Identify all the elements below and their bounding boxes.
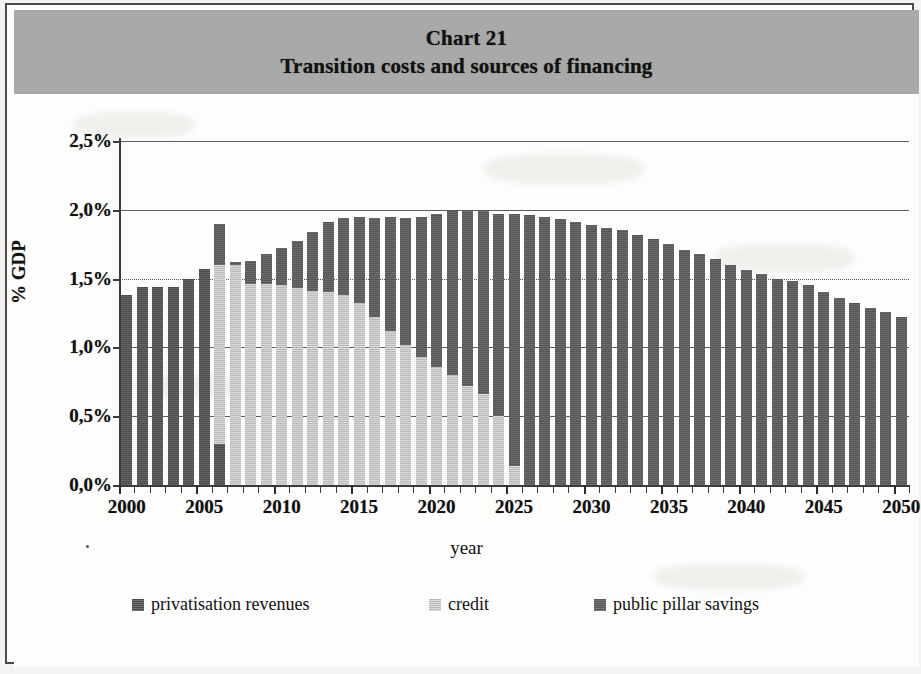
x-axis-tick — [522, 485, 523, 493]
bar-segment-priv — [168, 287, 179, 485]
bar-2030 — [586, 225, 597, 485]
bar-2025 — [509, 214, 520, 485]
bar-2022 — [462, 211, 473, 485]
bar-segment-savings — [772, 279, 783, 485]
y-axis-tick-labels: 0,0%0,5%1,0%1,5%2,0%2,5% — [44, 141, 112, 485]
bar-segment-savings — [524, 215, 535, 485]
bar-2041 — [756, 274, 767, 485]
chart-subtitle: Transition costs and sources of financin… — [280, 55, 652, 77]
bar-2050 — [896, 317, 907, 485]
x-axis-tick — [119, 485, 121, 494]
bar-2045 — [818, 292, 829, 485]
bar-2017 — [385, 217, 396, 485]
bar-segment-credit — [447, 375, 458, 485]
bar-segment-savings — [896, 317, 907, 485]
y-axis-tick-label: 1,5% — [52, 268, 112, 290]
x-axis-tick — [692, 485, 693, 493]
bar-segment-credit — [385, 331, 396, 485]
legend-label: credit — [448, 594, 489, 615]
chart-legend: privatisation revenuescreditpublic pilla… — [14, 594, 919, 624]
bar-segment-priv — [183, 279, 194, 485]
bar-segment-credit — [354, 303, 365, 485]
bar-2019 — [416, 217, 427, 485]
bar-segment-credit — [338, 295, 349, 485]
x-axis-tick-label: 2000 — [92, 496, 162, 518]
bar-2020 — [431, 214, 442, 485]
legend-swatch-icon — [132, 599, 144, 611]
x-axis-tick — [863, 485, 864, 493]
bar-2023 — [478, 211, 489, 485]
bar-segment-savings — [710, 259, 721, 485]
bar-segment-savings — [694, 254, 705, 485]
bar-2007 — [230, 262, 241, 485]
bar-2028 — [555, 219, 566, 485]
x-axis-tick-label: 2045 — [789, 496, 859, 518]
bar-2032 — [617, 230, 628, 485]
bar-segment-savings — [292, 241, 303, 288]
x-axis-tick — [584, 485, 586, 494]
bar-segment-savings — [307, 232, 318, 291]
bar-segment-credit — [431, 367, 442, 485]
bar-segment-savings — [338, 218, 349, 295]
bar-2040 — [741, 270, 752, 485]
x-axis-tick — [599, 485, 600, 493]
x-axis-tick — [661, 485, 663, 494]
y-axis-title: % GDP — [8, 240, 30, 304]
x-axis-tick — [677, 485, 678, 493]
legend-item[interactable]: privatisation revenues — [132, 594, 309, 615]
bar-segment-savings — [369, 218, 380, 317]
bar-segment-savings — [725, 265, 736, 485]
bar-segment-savings — [865, 308, 876, 486]
bar-segment-credit — [292, 288, 303, 485]
bar-2033 — [632, 235, 643, 485]
x-axis-tick — [847, 485, 848, 493]
x-axis-tick-labels: 2000200520102015202020252030203520402045… — [14, 496, 919, 524]
bar-2024 — [493, 214, 504, 485]
bar-segment-credit — [276, 285, 287, 485]
x-axis-tick — [398, 485, 399, 493]
bar-segment-savings — [632, 235, 643, 485]
x-axis-tick — [336, 485, 337, 493]
x-axis-tick — [754, 485, 755, 493]
bar-2035 — [663, 244, 674, 485]
bar-segment-priv — [121, 295, 132, 485]
x-axis-tick-label: 2005 — [169, 496, 239, 518]
x-axis-tick — [227, 485, 228, 493]
bar-segment-savings — [416, 217, 427, 357]
x-axis-tick-label: 2040 — [711, 496, 781, 518]
x-axis-tick — [243, 485, 244, 493]
x-axis-tick — [367, 485, 368, 493]
x-axis-tick — [785, 485, 786, 493]
bar-segment-savings — [230, 262, 241, 265]
x-axis-tick-label: 2025 — [479, 496, 549, 518]
bar-segment-credit — [462, 386, 473, 485]
bar-segment-savings — [214, 224, 225, 265]
legend-item[interactable]: public pillar savings — [594, 594, 759, 615]
bar-2008 — [245, 261, 256, 485]
bar-segment-credit — [230, 265, 241, 485]
bar-2004 — [183, 279, 194, 485]
bar-segment-savings — [834, 298, 845, 485]
bar-segment-priv — [214, 444, 225, 485]
legend-label: public pillar savings — [613, 594, 759, 615]
x-axis-tick-label: 2030 — [556, 496, 626, 518]
x-axis-tick — [615, 485, 616, 493]
y-axis-tick-label: 2,0% — [52, 199, 112, 221]
bar-2002 — [152, 287, 163, 485]
y-axis-tick-label: 0,0% — [52, 474, 112, 496]
bar-segment-savings — [803, 285, 814, 485]
x-axis-tick — [909, 485, 910, 493]
bar-2014 — [338, 218, 349, 485]
x-axis-tick — [258, 485, 259, 493]
bar-segment-savings — [478, 211, 489, 394]
legend-item[interactable]: credit — [429, 594, 489, 615]
bar-segment-savings — [617, 230, 628, 485]
x-axis-tick — [801, 485, 802, 493]
bar-segment-savings — [849, 303, 860, 485]
x-axis-tick — [382, 485, 383, 493]
bar-segment-savings — [539, 217, 550, 485]
bar-2044 — [803, 285, 814, 485]
y-axis-tick-label: 2,5% — [52, 130, 112, 152]
x-axis-tick — [274, 485, 276, 494]
bar-2047 — [849, 303, 860, 485]
